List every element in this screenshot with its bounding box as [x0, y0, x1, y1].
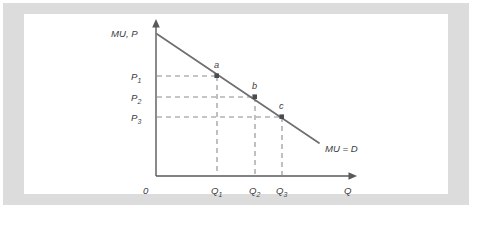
data-point-a-marker: [214, 73, 219, 78]
y-tick-label-p3: P3: [131, 112, 141, 125]
chart-plot: MU, P Q 0 P1 P2 P3 Q1 Q2 Q3 a b c MU = D: [0, 0, 492, 228]
guide-lines-group: [157, 76, 282, 175]
data-point-c-label: c: [279, 101, 284, 111]
y-tick-labels: P1 P2 P3: [131, 71, 141, 125]
x-tick-labels: Q1 Q2 Q3: [211, 185, 287, 198]
x-tick-label-q3: Q3: [276, 185, 287, 198]
data-point-b-label: b: [252, 81, 257, 91]
demand-curve-line: [157, 34, 319, 143]
y-tick-label-p2: P2: [131, 92, 141, 105]
y-axis-arrow-icon: [152, 19, 160, 28]
x-tick-label-q1: Q1: [211, 185, 222, 198]
data-point-c-marker: [279, 114, 284, 119]
x-tick-label-q2: Q2: [249, 185, 260, 198]
data-point-a-label: a: [214, 60, 219, 70]
x-axis-label: Q: [344, 185, 352, 196]
origin-label: 0: [143, 185, 149, 196]
y-axis-label: MU, P: [111, 28, 138, 39]
data-point-b-marker: [252, 94, 257, 99]
demand-curve-label: MU = D: [325, 143, 358, 154]
figure-root: MU, P Q 0 P1 P2 P3 Q1 Q2 Q3 a b c MU = D: [0, 0, 492, 228]
data-point-labels: a b c: [214, 60, 284, 111]
x-axis-arrow-icon: [349, 172, 358, 180]
y-tick-label-p1: P1: [131, 71, 141, 84]
